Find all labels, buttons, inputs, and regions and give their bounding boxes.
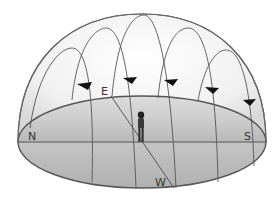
horizon-plane-front	[18, 142, 266, 188]
label-south: S	[244, 130, 251, 143]
celestial-sphere-diagram: E N S W	[0, 0, 275, 201]
label-north: N	[28, 130, 36, 143]
label-east: E	[101, 85, 108, 98]
label-west: W	[155, 176, 166, 189]
